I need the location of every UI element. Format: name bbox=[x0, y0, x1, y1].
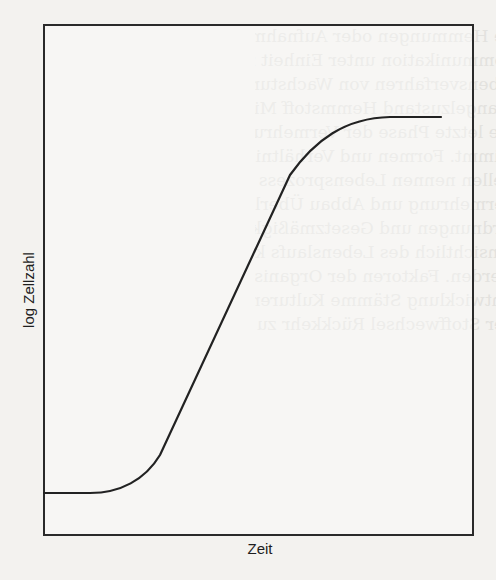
growth-curve-line bbox=[44, 117, 441, 493]
figure-page: ne Hemmungen oder Aufnahmen. Gebiet komm… bbox=[0, 0, 496, 580]
growth-curve bbox=[0, 0, 496, 580]
y-axis-label: log Zellzahl bbox=[19, 235, 39, 345]
x-axis-label: Zeit bbox=[220, 540, 300, 557]
